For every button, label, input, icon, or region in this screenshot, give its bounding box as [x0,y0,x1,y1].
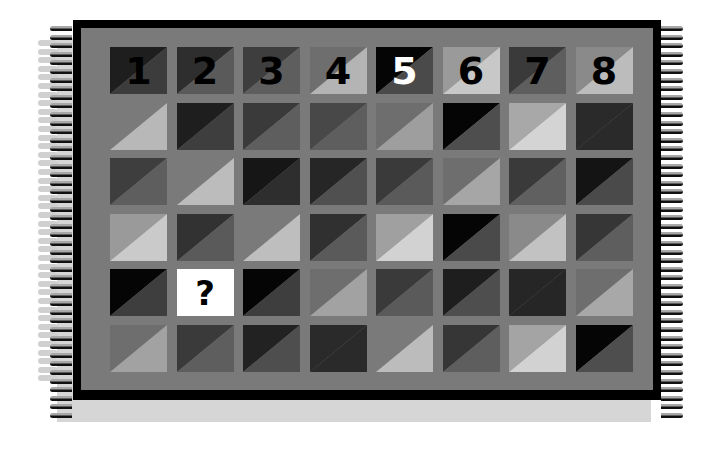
pattern-tile [110,269,167,316]
pattern-tile [310,269,367,316]
binding-coil [50,258,72,263]
binding-coil [50,293,72,298]
binding-coil [50,164,72,169]
pattern-tile [110,103,167,150]
binding-coil [50,404,72,409]
binding-coil [50,353,72,358]
tile-diagonal-split [509,269,566,316]
tile-diagonal-split [177,158,234,205]
pattern-tile [376,158,433,205]
pattern-tile [177,325,234,372]
tile-diagonal-split [509,325,566,372]
binding-coil [50,69,72,74]
header-tile: 1 [110,47,167,94]
binding-coil [661,293,683,298]
tile-diagonal-split [376,269,433,316]
pattern-tile [443,214,500,261]
tile-diagonal-split [376,158,433,205]
binding-coil [50,207,72,212]
binding-coil [661,215,683,220]
pattern-tile [576,325,633,372]
tile-diagonal-split [310,325,367,372]
pattern-tile [310,325,367,372]
binding-coil [50,387,72,392]
binding-coil [661,95,683,100]
pattern-tile [177,158,234,205]
binding-coil [50,344,72,349]
tile-diagonal-split [310,269,367,316]
binding-coil [661,370,683,375]
tile-diagonal-split [110,214,167,261]
tile-diagonal-split [110,325,167,372]
binding-coil [661,318,683,323]
spiral-binding-left [50,26,72,366]
binding-coil [50,241,72,246]
binding-coil [661,267,683,272]
header-tile: 5 [376,47,433,94]
binding-coil [661,250,683,255]
pattern-tile [576,103,633,150]
pattern-tile [110,325,167,372]
binding-coil [50,250,72,255]
binding-coil [661,207,683,212]
question-mark: ? [177,269,234,316]
binding-coil [661,379,683,384]
binding-coil [50,310,72,315]
binding-coil [661,181,683,186]
binding-coil [50,129,72,134]
tile-diagonal-split [576,325,633,372]
binding-coil [661,232,683,237]
tile-diagonal-split [443,269,500,316]
pattern-tile [443,325,500,372]
tile-diagonal-split [310,214,367,261]
pattern-tile [177,103,234,150]
tile-diagonal-split [310,158,367,205]
answer-tile[interactable]: ? [177,269,234,316]
binding-coil [661,155,683,160]
binding-coil [50,78,72,83]
pattern-tile [243,103,300,150]
binding-coil [661,60,683,65]
binding-coil [50,336,72,341]
binding-coil [661,396,683,401]
binding-coil [661,112,683,117]
binding-coil [661,327,683,332]
pattern-tile [509,103,566,150]
binding-coil [50,370,72,375]
binding-coil [50,198,72,203]
tile-diagonal-split [243,158,300,205]
header-tile: 4 [310,47,367,94]
pattern-tile [177,214,234,261]
binding-coil [661,310,683,315]
pattern-tile [576,214,633,261]
binding-coil [661,336,683,341]
binding-coil [661,43,683,48]
pattern-tile [310,158,367,205]
binding-coil [50,138,72,143]
tile-diagonal-split [509,158,566,205]
column-number: 1 [110,47,167,94]
binding-coil [661,121,683,126]
binding-coil [50,146,72,151]
binding-coil [50,60,72,65]
binding-coil [50,318,72,323]
tile-diagonal-split [443,158,500,205]
pattern-tile [443,103,500,150]
pattern-tile [243,158,300,205]
tile-diagonal-split [576,214,633,261]
tile-diagonal-split [243,103,300,150]
tile-diagonal-split [177,214,234,261]
pattern-tile [376,103,433,150]
binding-coil [661,258,683,263]
binding-coil [50,103,72,108]
binding-coil [50,172,72,177]
binding-coil [50,301,72,306]
tile-diagonal-split [443,325,500,372]
column-number: 7 [509,47,566,94]
binding-coil [661,241,683,246]
tile-diagonal-split [310,103,367,150]
binding-coil [661,353,683,358]
tile-diagonal-split [243,214,300,261]
tile-diagonal-split [443,214,500,261]
tile-diagonal-split [110,158,167,205]
